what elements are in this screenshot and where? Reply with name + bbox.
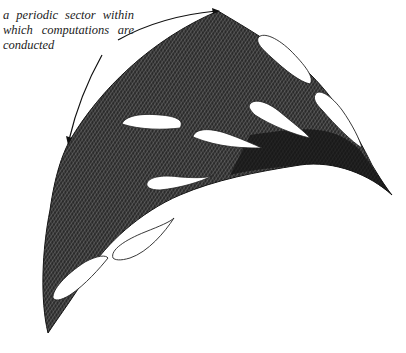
annotation-text: a periodic sector within which computati… — [3, 8, 134, 53]
mesh-region — [43, 11, 392, 333]
annotation-line-3: conducted — [3, 38, 134, 53]
annotation-line-1: a periodic sector within — [3, 8, 134, 23]
annotation-line-2: which computations are — [3, 23, 134, 38]
figure-canvas: a periodic sector within which computati… — [0, 0, 406, 353]
